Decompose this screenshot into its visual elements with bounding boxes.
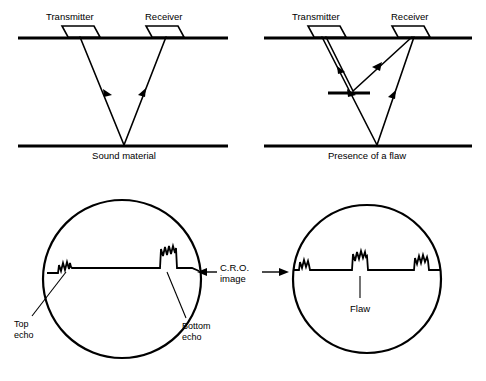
beam-arrow-down-left bbox=[103, 89, 112, 97]
bottom-echo-label-line1: Bottom bbox=[182, 321, 211, 331]
bottom-echo-label-line2: echo bbox=[182, 332, 202, 342]
top-right-panel: Transmitter Receiver Presence of a flaw bbox=[264, 11, 472, 161]
top-echo-label-line1: Top bbox=[14, 319, 29, 329]
beam-transmit-left bbox=[80, 37, 124, 145]
receiver-probe-right bbox=[392, 26, 430, 37]
callout-arrow-right-head bbox=[279, 268, 289, 276]
transmitter-probe-right bbox=[308, 26, 346, 37]
receiver-label-right: Receiver bbox=[391, 11, 429, 22]
cro-trace-left bbox=[47, 246, 199, 273]
leader-bottom-echo bbox=[167, 272, 186, 318]
beam-flaw-to-receiver bbox=[353, 37, 412, 91]
ultrasonic-testing-figure: Transmitter Receiver Sound material bbox=[0, 0, 486, 381]
top-echo-label-line2: echo bbox=[14, 330, 34, 340]
flaw-label: Flaw bbox=[350, 303, 370, 314]
cro-image-label-line2: image bbox=[220, 273, 246, 284]
beam-arrow-up-right bbox=[388, 90, 396, 99]
cro-trace-right bbox=[294, 251, 440, 270]
cro-image-callout: C.R.O. image bbox=[197, 262, 289, 284]
receiver-probe-left bbox=[146, 26, 184, 37]
caption-presence-of-flaw: Presence of a flaw bbox=[328, 150, 406, 161]
figure-canvas: Transmitter Receiver Sound material bbox=[0, 0, 486, 381]
transmitter-probe-left bbox=[62, 26, 100, 37]
transmitter-label-left: Transmitter bbox=[46, 11, 94, 22]
top-left-panel: Transmitter Receiver Sound material bbox=[18, 11, 228, 161]
caption-sound-material: Sound material bbox=[92, 150, 156, 161]
callout-arrow-left-head bbox=[197, 268, 207, 276]
cro-screen-right: Flaw bbox=[293, 205, 441, 353]
beam-transmit-to-flaw bbox=[326, 37, 353, 91]
cro-screen-left: Top echo Bottom echo bbox=[14, 200, 211, 358]
transmitter-label-right: Transmitter bbox=[292, 11, 340, 22]
receiver-label-left: Receiver bbox=[145, 11, 183, 22]
beam-arrow-up-left bbox=[138, 88, 146, 97]
cro-bezel-left bbox=[43, 200, 201, 358]
cro-bezel-right bbox=[293, 205, 441, 353]
cro-image-label-line1: C.R.O. bbox=[220, 262, 249, 273]
